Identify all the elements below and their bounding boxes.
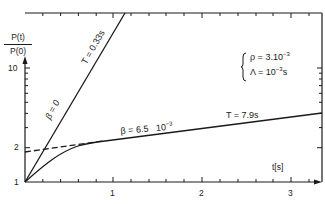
y-tick-label-10: 10 xyxy=(8,63,17,73)
lambda-exp: −3 xyxy=(276,66,283,72)
y-tick-label-1: 1 xyxy=(14,177,19,187)
rho-value: ρ = 3.10 xyxy=(250,52,283,62)
series-beta-0 xyxy=(25,13,125,182)
beta-6.5-exp: −3 xyxy=(165,120,172,127)
top-ticks xyxy=(43,13,309,18)
brace-icon xyxy=(240,52,248,82)
x-axis-label: t[s] xyxy=(272,162,283,172)
chart-canvas xyxy=(0,0,325,204)
x-axis-arrow-icon xyxy=(314,180,322,185)
y-tick-label-2: 2 xyxy=(14,142,19,152)
rho-parameter: ρ = 3.10−3 xyxy=(250,52,290,62)
y-label-denominator: P(0) xyxy=(4,45,32,57)
lambda-parameter: Λ = 10−3s xyxy=(250,67,287,77)
y-ticks xyxy=(25,68,30,148)
y-label-numerator: P(t) xyxy=(4,32,32,45)
rho-exp: −3 xyxy=(283,51,290,57)
lambda-value: Λ = 10 xyxy=(250,67,276,77)
y-axis-label: P(t) P(0) xyxy=(4,32,32,57)
period-7.9-label: T = 7.9s xyxy=(226,110,259,120)
x-tick-label-3: 3 xyxy=(288,188,293,198)
x-tick-label-1: 1 xyxy=(110,188,115,198)
right-ticks xyxy=(317,68,322,148)
y-axis-arrow-icon xyxy=(23,56,28,64)
x-ticks xyxy=(43,177,309,182)
x-tick-label-2: 2 xyxy=(199,188,204,198)
lambda-unit: s xyxy=(283,67,288,77)
